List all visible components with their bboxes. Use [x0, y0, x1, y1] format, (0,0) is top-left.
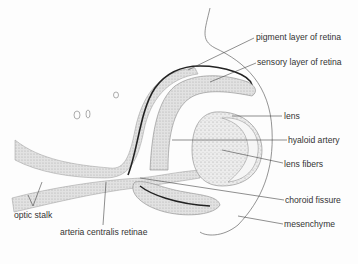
label-pigment-layer: pigment layer of retina [256, 32, 341, 42]
label-sensory-layer: sensory layer of retina [257, 57, 342, 67]
label-arteria-centralis: arteria centralis retinae [60, 227, 147, 237]
eye-diagram: pigment layer of retina sensory layer of… [0, 0, 358, 264]
label-hyaloid-artery: hyaloid artery [288, 135, 340, 145]
label-choroid-fissure: choroid fissure [285, 195, 341, 205]
label-lens: lens [284, 111, 300, 121]
label-mesenchyme: mesenchyme [284, 219, 335, 229]
lower-cup [133, 182, 220, 215]
label-lens-fibers: lens fibers [284, 159, 323, 169]
label-optic-stalk: optic stalk [14, 210, 52, 220]
